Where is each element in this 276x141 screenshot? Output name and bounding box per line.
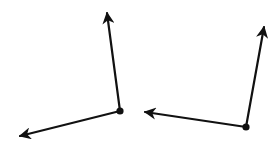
vertex-dot-icon <box>116 107 123 114</box>
ray-left-arrow-icon <box>145 112 246 127</box>
ray-down-left-arrow-icon <box>20 111 120 136</box>
vertex-dot-icon <box>242 123 249 130</box>
angles-layer <box>20 13 264 136</box>
ray-up-arrow-icon <box>107 13 120 111</box>
angles-diagram <box>0 0 276 141</box>
angle-right <box>145 27 264 131</box>
angle-left <box>20 13 124 136</box>
ray-up-arrow-icon <box>246 27 264 127</box>
